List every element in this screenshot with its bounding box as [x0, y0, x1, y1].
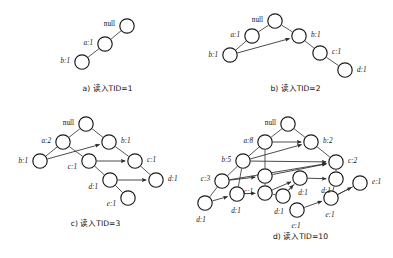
node-label: e:1: [291, 222, 300, 230]
tree-edge: [95, 166, 104, 175]
tree-edge: [259, 25, 269, 31]
tree-edge: [326, 57, 338, 65]
tree-edge: [141, 166, 150, 175]
tree-edge: [116, 186, 123, 193]
tree-node: [292, 29, 306, 43]
tree-edge: [271, 129, 282, 137]
node-label: d:1: [274, 208, 284, 216]
node-link-arrow: [213, 197, 228, 201]
caption-panel-b: b) 读入TID=2: [248, 82, 343, 93]
tree-edge: [333, 187, 334, 191]
node-label: a:2: [41, 137, 51, 145]
tree-node: [258, 135, 272, 149]
tree-node: [56, 135, 70, 149]
node-label: e:1: [372, 178, 381, 186]
tree-node: [149, 173, 163, 187]
tree-edge: [228, 166, 238, 175]
node-label: e:1: [107, 200, 116, 208]
node-label: c:3: [201, 175, 211, 183]
tree-node: [338, 63, 352, 77]
tree-node: [79, 117, 93, 131]
tree-node: [198, 196, 212, 210]
tree-node: [215, 174, 229, 188]
node-label: b:1: [311, 31, 321, 39]
tree-node: [236, 154, 250, 168]
tree-node: [223, 48, 237, 62]
node-label: a:8: [243, 137, 253, 145]
tree-node: [128, 154, 142, 168]
tree-node: [102, 135, 116, 149]
node-label: d:1: [231, 207, 241, 215]
node-label: null: [63, 119, 74, 127]
tree-edge: [236, 41, 246, 50]
node-label: a:1: [230, 31, 240, 39]
node-label: c:1: [332, 48, 341, 56]
node-label: d:1: [168, 175, 178, 183]
tree-node: [245, 29, 259, 43]
tree-node: [290, 203, 304, 217]
tree-node: [293, 171, 307, 185]
node-label: e:1: [325, 211, 334, 219]
tree-edge: [46, 147, 57, 156]
tree-node: [258, 186, 272, 200]
node-label: d:1: [357, 66, 367, 74]
tree-node: [98, 37, 112, 51]
node-link-arrow: [251, 161, 326, 162]
node-label: c:1: [244, 188, 253, 196]
tree-node: [121, 191, 135, 205]
node-label: null: [265, 119, 276, 127]
caption-panel-a: a) 读入TID=1: [60, 82, 155, 93]
node-link-arrow: [308, 178, 326, 179]
tree-node: [268, 14, 282, 28]
tree-edge: [210, 187, 217, 197]
node-link-arrow: [288, 185, 293, 190]
tree-node: [120, 19, 134, 33]
node-label: c:1: [68, 163, 77, 171]
node-label: null: [104, 20, 115, 28]
tree-node: [353, 176, 367, 190]
tree-node: [258, 169, 272, 183]
node-label: b:1: [18, 157, 28, 165]
node-label: d:1: [298, 189, 308, 197]
tree-edge: [92, 129, 103, 137]
tree-edge: [305, 41, 314, 48]
node-label: null: [252, 16, 263, 24]
tree-node: [329, 172, 343, 186]
tree-edge: [249, 147, 259, 156]
node-link-arrow: [304, 201, 321, 207]
tree-node: [75, 55, 89, 69]
tree-node: [329, 155, 343, 169]
tree-edge: [294, 129, 305, 137]
node-link-arrow: [238, 39, 290, 53]
tree-edge: [111, 31, 121, 39]
figure-fp-tree-construction: nulla:1b:1nulla:1b:1b:1c:1d:1nulla:2b:1b…: [0, 0, 393, 258]
tree-node: [304, 135, 318, 149]
node-label: b:5: [221, 156, 231, 164]
caption-panel-d: d) 读入TID=10: [253, 230, 348, 241]
node-label: d:1: [196, 216, 206, 224]
node-label: a:1: [83, 39, 93, 47]
node-label: d:1: [88, 183, 98, 191]
node-label: c:1: [147, 156, 156, 164]
node-label: c:2: [348, 157, 358, 165]
tree-node: [230, 187, 244, 201]
caption-panel-c: c) 读入TID=3: [48, 217, 143, 228]
tree-edge: [317, 147, 330, 157]
tree-node: [33, 154, 47, 168]
tree-node: [276, 189, 290, 203]
node-link-arrow: [338, 188, 351, 195]
tree-node: [313, 46, 327, 60]
node-label: b:1: [60, 57, 70, 65]
node-label: d:1: [321, 187, 331, 195]
tree-edge: [88, 49, 99, 57]
tree-node: [281, 117, 295, 131]
node-label: b:1: [121, 137, 131, 145]
node-label: b:2: [323, 137, 333, 145]
tree-edge: [115, 147, 128, 157]
tree-node: [103, 173, 117, 187]
tree-edge: [282, 25, 293, 32]
tree-node: [82, 154, 96, 168]
node-label: b:1: [208, 51, 218, 59]
tree-edge: [69, 129, 80, 137]
node-link-arrow: [251, 145, 302, 159]
